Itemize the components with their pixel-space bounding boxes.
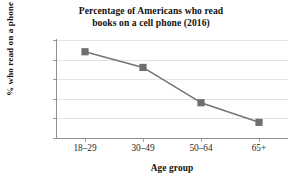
chart-figure: Percentage of Americans who read books o…: [0, 0, 293, 183]
data-point-50-64: [197, 99, 204, 106]
series-layer: [0, 0, 293, 183]
data-point-18-29: [81, 48, 88, 55]
series-line-percent-read-on-phone: [85, 52, 259, 123]
x-axis-title: Age group: [56, 163, 288, 173]
data-point-30-49: [139, 64, 146, 71]
data-point-65+: [255, 119, 262, 126]
